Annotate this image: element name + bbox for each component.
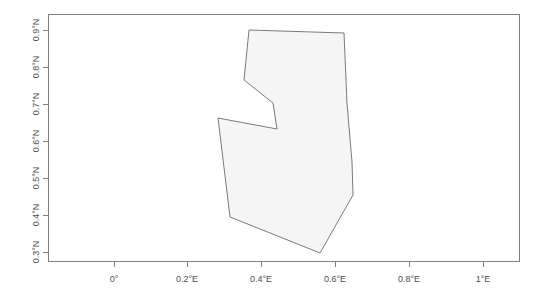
region-shapes-layer <box>218 30 353 253</box>
y-axis-tick-label: 0.9°N <box>31 19 41 42</box>
region-polygon <box>218 30 353 253</box>
x-axis-tick-label: 0.2°E <box>176 274 198 284</box>
y-axis-tick-label: 0.7°N <box>31 93 41 116</box>
x-axis-tick-label: 0.4°E <box>250 274 272 284</box>
x-axis-ticks-group: 0°0.2°E0.4°E0.6°E0.8°E1°E <box>110 262 491 284</box>
x-axis-tick-label: 0.6°E <box>324 274 346 284</box>
map-figure: 0.9°N0.8°N0.7°N0.6°N0.5°N0.4°N0.3°N 0°0.… <box>0 0 547 307</box>
y-axis-tick-label: 0.5°N <box>31 167 41 190</box>
y-axis-tick-label: 0.6°N <box>31 130 41 153</box>
y-axis-tick-label: 0.4°N <box>31 204 41 227</box>
y-axis-ticks-group: 0.9°N0.8°N0.7°N0.6°N0.5°N0.4°N0.3°N <box>31 19 48 264</box>
y-axis-tick-label: 0.3°N <box>31 241 41 264</box>
x-axis-tick-label: 1°E <box>476 274 491 284</box>
map-canvas: 0.9°N0.8°N0.7°N0.6°N0.5°N0.4°N0.3°N 0°0.… <box>0 0 547 307</box>
x-axis-tick-label: 0° <box>110 274 119 284</box>
y-axis-tick-label: 0.8°N <box>31 56 41 79</box>
x-axis-tick-label: 0.8°E <box>398 274 420 284</box>
